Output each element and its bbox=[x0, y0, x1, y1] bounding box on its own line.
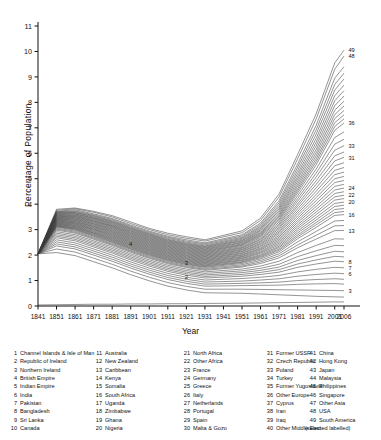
legend-entry: 47Other Asia bbox=[305, 399, 355, 407]
series-end-label: 6 bbox=[349, 271, 352, 277]
legend-entry-label: India bbox=[20, 392, 32, 398]
series-group bbox=[38, 50, 344, 305]
legend-entry-number: 15 bbox=[91, 382, 102, 390]
legend-entry-number: 21 bbox=[179, 349, 190, 357]
x-tick-label: 1951 bbox=[235, 313, 250, 320]
legend-entry-number: 4 bbox=[6, 374, 17, 382]
inline-series-label: 3 bbox=[185, 260, 188, 266]
legend-entry: 43Japan bbox=[305, 366, 355, 374]
legend-entry-number: 41 bbox=[305, 349, 316, 357]
legend-column: 1Channel Islands & Isle of Man2Republic … bbox=[6, 349, 94, 432]
legend-entry-label: Other Africa bbox=[193, 358, 223, 364]
legend-entry: 9Sri Lanka bbox=[6, 416, 94, 424]
legend-entry-label: Netherlands bbox=[193, 400, 223, 406]
inline-series-label: 2 bbox=[185, 274, 188, 280]
legend-entry-label: Poland bbox=[276, 367, 293, 373]
legend-entry-label: Greece bbox=[193, 383, 211, 389]
legend-entry-number: 9 bbox=[6, 416, 17, 424]
legend-column: 21North Africa22Other Africa23France24Ge… bbox=[179, 349, 227, 432]
series-end-label: 13 bbox=[349, 228, 355, 234]
legend-entry-label: Italy bbox=[193, 392, 203, 398]
legend-entry-label: Zimbabwe bbox=[105, 408, 131, 414]
legend-entry-label: Australia bbox=[105, 350, 127, 356]
series-line bbox=[38, 132, 344, 254]
legend-entry-label: France bbox=[193, 367, 210, 373]
legend-entry-number: 40 bbox=[262, 424, 273, 432]
series-line bbox=[38, 157, 344, 256]
legend-entry: 22Other Africa bbox=[179, 357, 227, 365]
legend-entry-label: Philippines bbox=[319, 383, 346, 389]
legend-entry-number: 23 bbox=[179, 366, 190, 374]
legend-entry-number: 27 bbox=[179, 399, 190, 407]
x-tick-label: 1901 bbox=[142, 313, 157, 320]
legend-entry-number: 28 bbox=[179, 407, 190, 415]
legend-entry-number: 12 bbox=[91, 357, 102, 365]
legend-entry-label: China bbox=[319, 350, 334, 356]
legend-entry: 12New Zealand bbox=[91, 357, 138, 365]
legend-entry: 11Australia bbox=[91, 349, 138, 357]
legend-entry-number: 29 bbox=[179, 416, 190, 424]
series-end-label: 24 bbox=[349, 185, 355, 191]
legend-entry-label: Sri Lanka bbox=[20, 417, 44, 423]
legend-entry-number: 45 bbox=[305, 382, 316, 390]
legend-entry-number: 17 bbox=[91, 399, 102, 407]
legend-entry: 48USA bbox=[305, 407, 355, 415]
legend-entry: 17Uganda bbox=[91, 399, 138, 407]
legend-entry-number: 35 bbox=[262, 382, 273, 390]
series-line bbox=[38, 50, 344, 254]
legend-entry-label: Portugal bbox=[193, 408, 214, 414]
x-tick-label: 1841 bbox=[31, 313, 46, 320]
legend-entry-label: Nigeria bbox=[105, 425, 123, 431]
x-axis-title: Year bbox=[0, 326, 381, 336]
x-tick-label: 1971 bbox=[272, 313, 287, 320]
legend-entry: 7Pakistan bbox=[6, 399, 94, 407]
legend-entry-label: Japan bbox=[319, 367, 334, 373]
y-tick-label: 2 bbox=[28, 251, 32, 260]
legend-entry-label: Pakistan bbox=[20, 400, 41, 406]
legend-entry-number: 18 bbox=[91, 407, 102, 415]
y-tick-label: 10 bbox=[24, 47, 32, 56]
legend-entry: 14Kenya bbox=[91, 374, 138, 382]
x-tick-label: 2006 bbox=[337, 313, 352, 320]
legend-entry-number: 16 bbox=[91, 391, 102, 399]
legend-entry: 28Portugal bbox=[179, 407, 227, 415]
legend-entry-label: Spain bbox=[193, 417, 207, 423]
legend-entry-number: 8 bbox=[6, 407, 17, 415]
series-line bbox=[38, 302, 344, 305]
series-line bbox=[38, 119, 344, 254]
x-tick-label: 1921 bbox=[179, 313, 194, 320]
x-tick-label: 1881 bbox=[105, 313, 120, 320]
legend-entry: 18Zimbabwe bbox=[91, 407, 138, 415]
x-tick-label: 1871 bbox=[86, 313, 101, 320]
legend-entry: 10Canada bbox=[6, 424, 94, 432]
legend-entry-number: 11 bbox=[91, 349, 102, 357]
legend-entry-number: 25 bbox=[179, 382, 190, 390]
legend-entry-number: 33 bbox=[262, 366, 273, 374]
legend-entry: 23France bbox=[179, 366, 227, 374]
legend-entry-number: 43 bbox=[305, 366, 316, 374]
legend-entry: 42Hong Kong bbox=[305, 357, 355, 365]
y-tick-label: 11 bbox=[25, 22, 32, 31]
legend-entry-number: 26 bbox=[179, 391, 190, 399]
legend-entry-label: North Africa bbox=[193, 350, 222, 356]
migration-line-chart: 0123456789101118411851186118711881189119… bbox=[0, 0, 381, 440]
series-end-label: 3 bbox=[349, 288, 352, 294]
x-tick-label: 1991 bbox=[309, 313, 324, 320]
x-tick-label: 1981 bbox=[290, 313, 305, 320]
legend-entry: 49South America bbox=[305, 416, 355, 424]
legend-entry-number: 1 bbox=[6, 349, 17, 357]
series-end-label: 20 bbox=[349, 199, 355, 205]
legend-entry-number: 22 bbox=[179, 357, 190, 365]
legend-entry-number: 13 bbox=[91, 366, 102, 374]
legend-entry-number: 36 bbox=[262, 391, 273, 399]
legend-entry-label: South Africa bbox=[105, 392, 135, 398]
legend-entry-label: Iran bbox=[276, 408, 286, 414]
legend-note: (selected labelled) bbox=[305, 424, 355, 432]
legend-entry-number: 3 bbox=[6, 366, 17, 374]
legend-entry-label: Northern Ireland bbox=[20, 367, 60, 373]
series-end-label: 22 bbox=[349, 192, 355, 198]
x-tick-label: 1861 bbox=[68, 313, 83, 320]
legend-entry-label: Malta & Gozo bbox=[193, 425, 227, 431]
legend-entry-label: Other Asia bbox=[319, 400, 345, 406]
legend-entry-label: Iraq bbox=[276, 417, 286, 423]
